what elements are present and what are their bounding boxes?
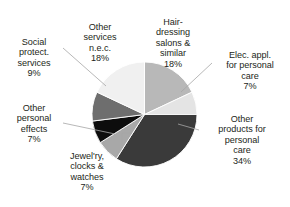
slice-label-text: Elec. appl. for personal care: [226, 50, 273, 81]
pie-chart-figure: Hair- dressing salons & similar 18% Elec…: [0, 0, 290, 207]
slice-label-text: Other products for personal care: [218, 114, 265, 156]
slice-label-text: Hair- dressing salons & similar: [156, 17, 190, 59]
slice-label-percent: 7%: [214, 81, 286, 92]
slice-label-other-products: Other products for personal care 34%: [200, 103, 284, 177]
slice-label-text: Other services n.e.c.: [84, 22, 117, 53]
slice-label-percent: 34%: [200, 156, 284, 167]
slice-label-other-services-nec: Other services n.e.c. 18%: [67, 11, 133, 75]
slice-label-hair-dressing: Hair- dressing salons & similar 18%: [141, 6, 205, 80]
slice-label-percent: 18%: [141, 59, 205, 70]
slice-label-other-personal-effects: Other personal effects 7%: [3, 92, 65, 156]
slice-label-percent: 9%: [1, 68, 67, 79]
slice-label-text: Other personal effects: [17, 103, 51, 134]
slice-label-text: Jewel'ry, clocks & watches: [70, 151, 104, 182]
slice-label-percent: 18%: [67, 53, 133, 64]
slice-label-percent: 7%: [52, 182, 122, 193]
slice-label-elec-appliances: Elec. appl. for personal care 7%: [214, 39, 286, 103]
slice-label-text: Social protect. services: [18, 37, 51, 68]
slice-label-percent: 7%: [3, 134, 65, 145]
slice-label-social-protect-services: Social protect. services 9%: [1, 26, 67, 90]
